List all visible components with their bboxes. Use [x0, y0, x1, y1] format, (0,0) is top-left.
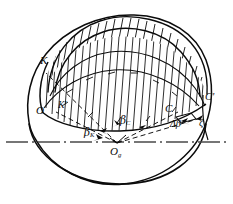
- label-point-k-prime: K': [58, 101, 66, 111]
- label-center-og: Og: [110, 146, 121, 158]
- label-angle-zeta: ζ: [199, 118, 203, 129]
- beta-k-subscript: K: [90, 131, 94, 138]
- label-angle-delta-beta: Δβ: [170, 119, 181, 129]
- label-point-c: C: [165, 103, 172, 114]
- geometry-figure: [0, 0, 233, 204]
- label-point-k: K: [40, 55, 47, 66]
- diagram-canvas: K K' O C C' Og βK βC Δβ ζ: [0, 0, 233, 204]
- label-center-letter: O: [110, 145, 118, 157]
- label-angle-beta-c: βC: [120, 115, 130, 127]
- label-point-o: O: [36, 105, 44, 116]
- label-center-subscript: g: [118, 151, 121, 158]
- beta-c-subscript: C: [126, 119, 130, 126]
- label-point-c-prime: C': [205, 92, 214, 103]
- label-angle-beta-k: βK: [84, 127, 94, 139]
